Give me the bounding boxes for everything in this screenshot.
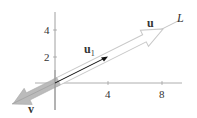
x-tick-label-8: 8 — [159, 88, 165, 100]
label-v: v — [28, 102, 34, 116]
vector-u-arrow — [51, 21, 167, 91]
y-tick-label-4: 4 — [44, 24, 50, 36]
label-u: u — [147, 16, 154, 30]
label-u1-subscript: 1 — [91, 49, 95, 58]
label-L: L — [176, 11, 184, 25]
y-tick-label-2: 2 — [44, 51, 50, 63]
line-L-overlay — [12, 83, 55, 104]
vector-u1-shaft — [55, 59, 104, 84]
x-tick-label-4: 4 — [105, 88, 111, 100]
label-u1: u1 — [84, 42, 95, 58]
vector-projection-diagram: 4 8 2 4 u L u1 v — [0, 0, 197, 118]
